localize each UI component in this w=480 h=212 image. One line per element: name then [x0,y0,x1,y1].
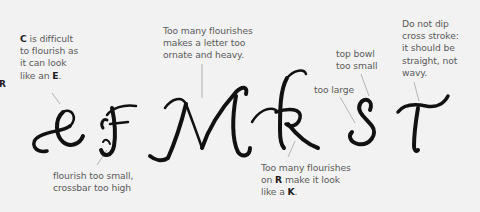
leader-line-t [414,82,419,101]
leader-line-c [52,93,60,104]
calligraphy-letters [0,0,480,212]
letter-m [150,88,250,160]
letter-f [101,105,136,154]
leader-line-s-large [340,97,355,123]
letter-r [252,71,318,148]
letter-c [34,111,83,152]
calligraphy-diagram: R C is difficult to flourish as it can l… [0,0,480,212]
letter-s [350,100,374,144]
leader-line-s-bowl [361,74,369,96]
leader-line-r [288,141,295,157]
letter-t [398,96,448,151]
